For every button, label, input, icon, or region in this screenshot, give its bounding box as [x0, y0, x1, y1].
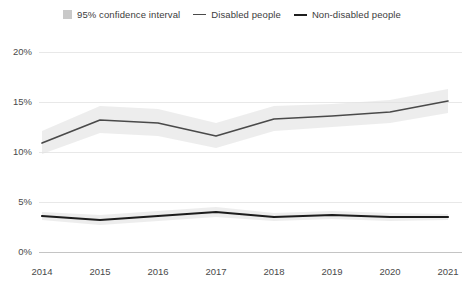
chart-container: 95% confidence interval Disabled people … [0, 0, 464, 295]
confidence-band-disabled-people [42, 89, 448, 154]
y-tick-label-15%: 15% [13, 96, 33, 107]
y-tick-label-20%: 20% [13, 46, 33, 57]
y-axis-tick-labels: 0%5%10%15%20% [13, 46, 33, 257]
x-tick-label-2018: 2018 [263, 266, 284, 277]
plot-area: 0%5%10%15%20% 20142015201620172018201920… [0, 0, 464, 295]
x-tick-label-2019: 2019 [321, 266, 342, 277]
y-tick-label-10%: 10% [13, 146, 33, 157]
x-tick-label-2017: 2017 [205, 266, 226, 277]
x-tick-label-2021: 2021 [437, 266, 458, 277]
x-tick-label-2014: 2014 [31, 266, 52, 277]
confidence-bands [42, 89, 448, 225]
x-tick-label-2020: 2020 [379, 266, 400, 277]
y-tick-label-5%: 5% [18, 196, 32, 207]
x-tick-label-2015: 2015 [89, 266, 110, 277]
y-tick-label-0%: 0% [18, 246, 32, 257]
x-tick-label-2016: 2016 [147, 266, 168, 277]
x-axis-tick-labels: 20142015201620172018201920202021 [31, 266, 458, 277]
